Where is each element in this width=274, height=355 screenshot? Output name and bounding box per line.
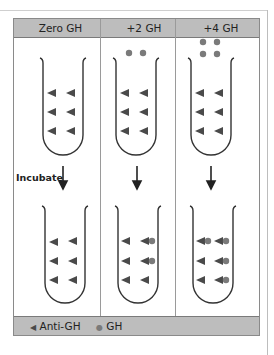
anti-gh-group-zero-before xyxy=(47,89,75,135)
tube-plus4-gh-before xyxy=(188,58,234,155)
anti-gh-group-plus4-after xyxy=(196,237,229,284)
tube-zero-gh-after xyxy=(42,206,88,303)
tube-diagram xyxy=(0,0,274,355)
tube-zero-gh-before xyxy=(40,58,86,155)
anti-gh-group-plus4-before xyxy=(195,89,223,135)
tube-plus2-gh-before xyxy=(113,58,159,155)
tube-plus2-gh-after xyxy=(115,206,161,303)
gh-dots-plus2 xyxy=(126,50,146,56)
gh-dots-plus4 xyxy=(200,39,220,57)
tube-plus4-gh-after xyxy=(190,206,236,303)
anti-gh-group-plus2-before xyxy=(120,89,148,135)
arrow-down-icon xyxy=(59,166,215,189)
anti-gh-group-zero-after xyxy=(49,237,77,284)
anti-gh-group-plus2-after xyxy=(121,237,155,284)
